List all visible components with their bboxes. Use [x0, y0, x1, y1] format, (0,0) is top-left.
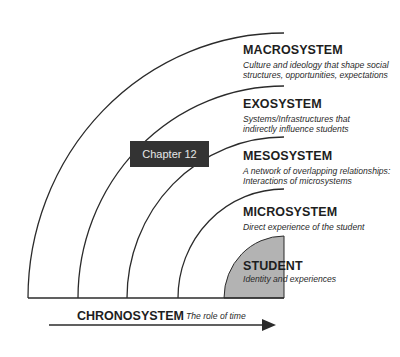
arrow-head	[262, 319, 276, 331]
layer-desc-line: Identity and experiences	[243, 274, 336, 284]
layer-desc-line: Direct experience of the student	[243, 222, 364, 232]
layer-title: MACROSYSTEM	[243, 43, 389, 57]
layer-desc-line: Systems/Infrastructures that	[243, 114, 350, 124]
chapter-tag: Chapter 12	[130, 141, 209, 167]
layer-label-microsystem: MICROSYSTEM Direct experience of the stu…	[243, 205, 364, 232]
chronosystem-desc: The role of time	[186, 311, 246, 321]
chronosystem-title: CHRONOSYSTEM	[77, 309, 184, 323]
layer-title: MESOSYSTEM	[243, 149, 390, 163]
layer-title: MICROSYSTEM	[243, 205, 364, 219]
layer-desc-line: A network of overlapping relationships:	[243, 166, 390, 176]
chapter-tag-label: Chapter 12	[142, 148, 196, 160]
layer-label-mesosystem: MESOSYSTEM A network of overlapping rela…	[243, 149, 390, 186]
layer-desc-line: structures, opportunities, expectations	[243, 70, 389, 80]
layer-desc-line: Interactions of microsystems	[243, 176, 390, 186]
layer-label-exosystem: EXOSYSTEM Systems/Infrastructures that i…	[243, 97, 350, 134]
layer-desc-line: indirectly influence students	[243, 124, 350, 134]
layer-desc-line: Culture and ideology that shape social	[243, 60, 389, 70]
layer-title: STUDENT	[243, 259, 336, 273]
layer-label-student: STUDENT Identity and experiences	[243, 259, 336, 284]
layer-title: EXOSYSTEM	[243, 97, 350, 111]
layer-label-macrosystem: MACROSYSTEM Culture and ideology that sh…	[243, 43, 389, 80]
